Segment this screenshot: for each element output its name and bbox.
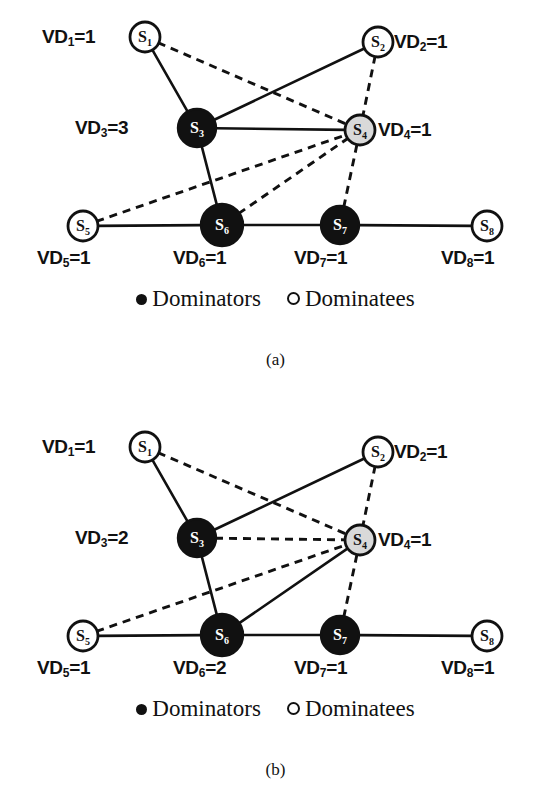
legend-item-dominators: Dominators <box>136 286 261 312</box>
edge-s2-s4-dashed <box>363 466 375 527</box>
edge-s3-s6-solid <box>201 555 217 615</box>
vd-label-value: =1 <box>69 247 90 268</box>
vd-label-base: VD <box>37 247 63 268</box>
vd-label-s8: VD8=1 <box>441 248 494 269</box>
vd-label-value: =2 <box>107 527 128 548</box>
vd-label-value: =1 <box>205 247 226 268</box>
vd-label-s7: VD7=1 <box>294 248 347 269</box>
legend-item-dominators: Dominators <box>136 696 261 722</box>
node-s8[interactable]: S8 <box>472 621 502 651</box>
vd-label-value: =1 <box>410 529 431 550</box>
graph-canvas-a: S1S2S3S4S5S6S7S8 <box>0 0 551 400</box>
vd-label-value: =1 <box>426 441 447 462</box>
panel-caption-b: (b) <box>0 760 551 780</box>
vd-label-value: =1 <box>69 657 90 678</box>
vd-label-s7: VD7=1 <box>294 658 347 679</box>
vd-label-s2: VD2=1 <box>394 442 447 463</box>
vd-label-s3: VD3=3 <box>75 118 128 139</box>
node-s5[interactable]: S5 <box>68 211 98 241</box>
legend-item-dominatees: Dominatees <box>287 696 415 722</box>
vd-label-base: VD <box>75 527 101 548</box>
vd-label-base: VD <box>42 436 68 457</box>
vd-label-value: =1 <box>410 119 431 140</box>
node-s4[interactable]: S4 <box>345 115 375 145</box>
node-s7[interactable]: S7 <box>321 206 359 244</box>
node-s6[interactable]: S6 <box>201 204 243 246</box>
vd-label-base: VD <box>394 31 420 52</box>
vd-label-base: VD <box>441 247 467 268</box>
vd-label-value: =1 <box>74 436 95 457</box>
node-s3[interactable]: S3 <box>178 109 216 147</box>
edge-s6-s4-dashed <box>238 138 348 214</box>
graph-canvas-b: S1S2S3S4S5S6S7S8 <box>0 400 551 810</box>
figure-root: S1S2S3S4S5S6S7S8VD1=1VD2=1VD3=3VD4=1VD5=… <box>0 0 551 810</box>
vd-label-base: VD <box>441 657 467 678</box>
panel-a: S1S2S3S4S5S6S7S8VD1=1VD2=1VD3=3VD4=1VD5=… <box>0 0 551 400</box>
vd-label-base: VD <box>378 529 404 550</box>
node-s1[interactable]: S1 <box>130 432 160 462</box>
vd-label-value: =1 <box>326 247 347 268</box>
node-s3[interactable]: S3 <box>178 519 216 557</box>
panel-b: S1S2S3S4S5S6S7S8VD1=1VD2=1VD3=2VD4=1VD5=… <box>0 400 551 810</box>
node-s8[interactable]: S8 <box>472 211 502 241</box>
vd-label-s8: VD8=1 <box>441 658 494 679</box>
vd-label-value: =1 <box>326 657 347 678</box>
edge-s5-s6-solid <box>97 635 202 636</box>
node-s2[interactable]: S2 <box>363 27 393 57</box>
edge-s3-s4-solid <box>215 128 346 130</box>
vd-label-base: VD <box>378 119 404 140</box>
legend-label-dominatees: Dominatees <box>305 286 415 311</box>
panel-caption-a: (a) <box>0 350 551 370</box>
edge-s7-s4-dashed <box>344 554 357 618</box>
legend-label-dominators: Dominators <box>152 696 261 721</box>
node-s1[interactable]: S1 <box>130 22 160 52</box>
vd-label-s4: VD4=1 <box>378 120 431 141</box>
edge-s2-s3-solid <box>213 48 365 120</box>
vd-label-base: VD <box>37 657 63 678</box>
vd-label-s2: VD2=1 <box>394 32 447 53</box>
vd-label-value: =2 <box>205 657 226 678</box>
vd-label-s1: VD1=1 <box>42 437 95 458</box>
vd-label-base: VD <box>173 657 199 678</box>
edge-s6-s4-solid <box>238 548 348 624</box>
legend-label-dominators: Dominators <box>152 286 261 311</box>
vd-label-s6: VD6=2 <box>173 658 226 679</box>
filled-dot-icon <box>136 294 147 305</box>
vd-label-base: VD <box>394 441 420 462</box>
edge-s1-s3-solid <box>152 459 188 522</box>
node-s6[interactable]: S6 <box>201 614 243 656</box>
legend-b: DominatorsDominatees <box>0 694 551 722</box>
hollow-dot-icon <box>287 702 300 715</box>
edge-s2-s4-dashed <box>363 56 375 117</box>
legend-label-dominatees: Dominatees <box>305 696 415 721</box>
vd-label-s4: VD4=1 <box>378 530 431 551</box>
vd-label-value: =1 <box>473 657 494 678</box>
vd-label-base: VD <box>42 26 68 47</box>
vd-label-s1: VD1=1 <box>42 27 95 48</box>
legend-a: DominatorsDominatees <box>0 284 551 312</box>
legend-item-dominatees: Dominatees <box>287 286 415 312</box>
vd-label-s3: VD3=2 <box>75 528 128 549</box>
edge-s7-s4-dashed <box>344 144 357 208</box>
vd-label-value: =1 <box>473 247 494 268</box>
node-s2[interactable]: S2 <box>363 437 393 467</box>
edge-s3-s6-solid <box>201 145 217 205</box>
node-s7[interactable]: S7 <box>321 616 359 654</box>
edge-s7-s8-solid <box>358 225 473 226</box>
edge-s7-s8-solid <box>358 635 473 636</box>
node-s4[interactable]: S4 <box>345 525 375 555</box>
edge-s3-s4-dashed <box>215 538 346 540</box>
vd-label-base: VD <box>75 117 101 138</box>
vd-label-base: VD <box>294 247 320 268</box>
vd-label-value: =1 <box>426 31 447 52</box>
vd-label-base: VD <box>173 247 199 268</box>
node-s5[interactable]: S5 <box>68 621 98 651</box>
vd-label-base: VD <box>294 657 320 678</box>
edge-s5-s6-solid <box>97 225 202 226</box>
vd-label-s5: VD5=1 <box>37 658 90 679</box>
vd-label-s6: VD6=1 <box>173 248 226 269</box>
edge-s1-s3-solid <box>152 49 188 112</box>
edge-s2-s3-solid <box>213 458 365 530</box>
vd-label-value: =3 <box>107 117 128 138</box>
hollow-dot-icon <box>287 292 300 305</box>
